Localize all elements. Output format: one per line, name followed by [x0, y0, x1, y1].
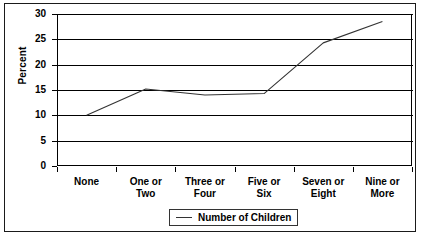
x-axis-label-line: More: [370, 188, 394, 199]
x-axis-tick-label: Three orFour: [174, 176, 236, 200]
x-axis-tick-mark: [57, 167, 58, 172]
x-axis-tick-label: None: [56, 176, 118, 188]
x-axis-label-line: Nine or: [365, 176, 399, 187]
x-axis-tick-mark: [235, 167, 236, 172]
x-axis-label-line: Two: [136, 188, 155, 199]
x-axis-label-line: Six: [257, 188, 272, 199]
x-axis-tick-label: Nine orMore: [351, 176, 413, 200]
x-axis-tick-mark: [412, 167, 413, 172]
legend-line-swatch: [176, 217, 192, 218]
series-line: [87, 22, 383, 116]
x-axis-label-line: None: [74, 176, 99, 187]
x-axis-tick-label: One orTwo: [115, 176, 177, 200]
x-axis-tick-mark: [175, 167, 176, 172]
x-axis-label-line: Three or: [185, 176, 225, 187]
legend-label: Number of Children: [198, 212, 291, 223]
chart-figure: Percent 051015202530 NoneOne orTwoThree …: [0, 0, 421, 244]
x-axis-tick-mark: [116, 167, 117, 172]
data-series-layer: [0, 0, 421, 244]
x-axis-label-line: Seven or: [302, 176, 344, 187]
legend[interactable]: Number of Children: [169, 209, 298, 226]
x-axis-label-line: One or: [130, 176, 162, 187]
x-axis-label-line: Four: [194, 188, 216, 199]
x-axis-tick-mark: [353, 167, 354, 172]
x-axis-label-line: Five or: [248, 176, 281, 187]
x-axis-label-line: Eight: [311, 188, 336, 199]
x-axis-tick-label: Five orSix: [233, 176, 295, 200]
x-axis-tick-label: Seven orEight: [292, 176, 354, 200]
x-axis-tick-mark: [294, 167, 295, 172]
